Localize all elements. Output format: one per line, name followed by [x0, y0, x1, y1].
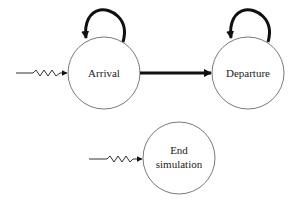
end-simulation-external-trigger-arrow: [89, 156, 142, 162]
arrival-external-trigger-arrow: [16, 70, 67, 76]
node-departure: Departure: [212, 37, 284, 109]
end-simulation-label-line2: simulation: [156, 158, 203, 170]
end-simulation-label-line1: End: [170, 144, 188, 156]
node-end-simulation: End simulation: [143, 122, 215, 194]
event-graph-diagram: Arrival Departure End simulation: [0, 0, 299, 205]
departure-label: Departure: [226, 67, 270, 79]
arrival-label: Arrival: [88, 67, 120, 79]
node-arrival: Arrival: [68, 37, 140, 109]
